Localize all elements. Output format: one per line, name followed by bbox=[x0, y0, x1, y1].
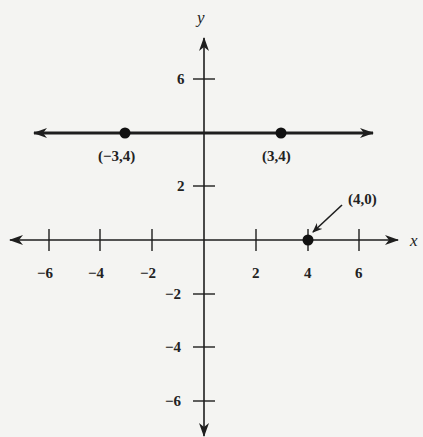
x-tick-label: 2 bbox=[252, 266, 260, 281]
x-tick-label: −4 bbox=[88, 266, 104, 281]
x-axis-label: x bbox=[410, 232, 418, 249]
point-4-0 bbox=[303, 235, 314, 246]
y-tick-label: 6 bbox=[177, 72, 185, 87]
y-tick-label: −4 bbox=[165, 340, 181, 355]
x-tick-label: 4 bbox=[304, 266, 312, 281]
point-label-neg3-4: (−3,4) bbox=[98, 149, 135, 164]
y-tick-label: −6 bbox=[165, 394, 181, 409]
x-tick-label: 6 bbox=[355, 266, 363, 281]
point-neg3-4 bbox=[120, 128, 131, 139]
y-tick-label: 2 bbox=[177, 179, 185, 194]
y-tick-label: −2 bbox=[165, 287, 181, 302]
x-tick-label: −2 bbox=[140, 266, 156, 281]
y-axis-label: y bbox=[197, 9, 205, 26]
x-tick-label: −6 bbox=[37, 266, 53, 281]
annotation-arrow bbox=[313, 205, 342, 232]
point-3-4 bbox=[276, 128, 287, 139]
point-label-3-4: (3,4) bbox=[262, 149, 291, 164]
point-label-4-0: (4,0) bbox=[348, 192, 377, 207]
coordinate-plane bbox=[0, 0, 423, 437]
